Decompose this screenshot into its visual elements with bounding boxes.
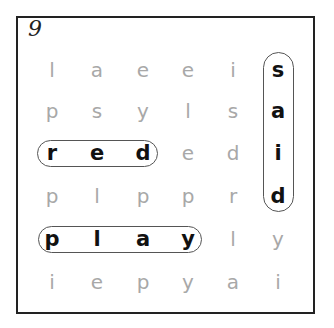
grid-cell[interactable]: a [128, 224, 158, 254]
grid-cell[interactable]: e [82, 138, 112, 168]
grid-cell[interactable]: y [173, 224, 203, 254]
grid-cell[interactable]: p [37, 181, 67, 211]
grid-cell[interactable]: d [263, 181, 293, 211]
grid-cell[interactable]: l [82, 224, 112, 254]
grid-cell[interactable]: s [263, 55, 293, 85]
grid-cell[interactable]: i [263, 267, 293, 297]
grid-cell[interactable]: a [263, 96, 293, 126]
grid-cell[interactable]: l [218, 224, 248, 254]
grid-cell[interactable]: i [218, 55, 248, 85]
grid-cell[interactable]: p [37, 96, 67, 126]
grid-cell[interactable]: p [128, 267, 158, 297]
grid-cell[interactable]: a [82, 55, 112, 85]
grid-cell[interactable]: d [128, 138, 158, 168]
grid-cell[interactable]: p [37, 224, 67, 254]
grid-cell[interactable]: s [82, 96, 112, 126]
grid-cell[interactable]: y [128, 96, 158, 126]
grid-cell[interactable]: a [218, 267, 248, 297]
grid-cell[interactable]: r [218, 181, 248, 211]
grid-cell[interactable]: e [82, 267, 112, 297]
grid-cell[interactable]: e [128, 55, 158, 85]
grid-cell[interactable]: l [173, 96, 203, 126]
grid-cell[interactable]: e [173, 138, 203, 168]
grid-cell[interactable]: s [218, 96, 248, 126]
grid-cell[interactable]: r [37, 138, 67, 168]
grid-cell[interactable]: i [263, 138, 293, 168]
grid-cell[interactable]: y [173, 267, 203, 297]
grid-cell[interactable]: e [173, 55, 203, 85]
puzzle-number: 9 [28, 18, 42, 40]
grid-cell[interactable]: i [37, 267, 67, 297]
grid-cell[interactable]: y [263, 224, 293, 254]
grid-cell[interactable]: d [218, 138, 248, 168]
grid-cell[interactable]: l [82, 181, 112, 211]
grid-cell[interactable]: l [37, 55, 67, 85]
grid-cell[interactable]: p [128, 181, 158, 211]
grid-cell[interactable]: p [173, 181, 203, 211]
